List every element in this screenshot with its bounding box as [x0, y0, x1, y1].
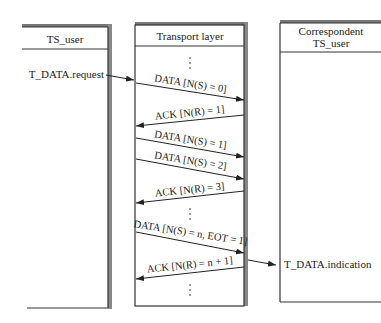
svg-text:ACK [N(R) = n + 1]: ACK [N(R) = n + 1]: [146, 255, 233, 276]
svg-text:ACK [N(R) = 1]: ACK [N(R) = 1]: [154, 103, 225, 122]
indication-label: T_DATA.indication: [284, 258, 372, 270]
message-7: ACK [N(R) = n + 1]: [136, 255, 244, 279]
svg-text:DATA [N(S) = 1]: DATA [N(S) = 1]: [153, 128, 227, 151]
request-arrow: T_DATA.request: [29, 68, 134, 80]
svg-text:DATA [N(S) = 0]: DATA [N(S) = 0]: [153, 72, 227, 95]
correspondent-title-line2: TS_user: [313, 37, 350, 49]
transport-layer-title: Transport layer: [156, 30, 223, 42]
sequence-diagram: TS_user Transport layer Correspondent TS…: [0, 0, 381, 323]
message-1: DATA [N(S) = 0]: [136, 72, 244, 100]
ts-user-title: TS_user: [47, 33, 84, 45]
svg-text:DATA [N(S) = n, EOT = 1]: DATA [N(S) = n, EOT = 1]: [133, 218, 248, 248]
correspondent-title-line1: Correspondent: [299, 25, 364, 37]
message-5: ACK [N(R) = 3]: [136, 180, 244, 203]
ts-user-box: TS_user: [22, 24, 112, 309]
message-2: ACK [N(R) = 1]: [136, 103, 244, 126]
request-label: T_DATA.request: [29, 68, 104, 80]
message-3: DATA [N(S) = 1]: [136, 128, 244, 157]
message-6: DATA [N(S) = n, EOT = 1]: [133, 218, 248, 253]
indication-arrow: T_DATA.indication: [248, 258, 372, 270]
